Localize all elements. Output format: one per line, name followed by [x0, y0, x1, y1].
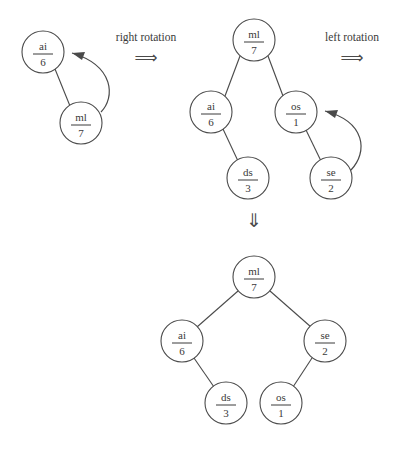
stage-initial-tree: ai 6 ml 7: [22, 31, 109, 144]
edge-ai-ds: [223, 129, 238, 161]
rotation-arrow-head: [325, 110, 338, 118]
edge-ml-ai-final: [197, 291, 238, 327]
node-key-label: ml: [248, 28, 260, 40]
tree-rotation-diagram: ai 6 ml 7: [0, 0, 408, 451]
node-value-label: 7: [78, 127, 84, 139]
right-rotation-label: right rotation: [104, 31, 188, 43]
node-key-label: se: [326, 166, 335, 178]
node-key-label: os: [276, 391, 286, 403]
node-ai-6-middle: ai 6: [190, 91, 232, 133]
stage-middle-tree: ml 7 ai 6 os 1 ds: [190, 19, 361, 199]
node-key-label: ai: [207, 100, 215, 112]
node-value-label: 6: [208, 116, 214, 128]
node-se-2-middle: se 2: [310, 157, 352, 199]
node-key-label: ml: [75, 111, 87, 123]
node-value-label: 7: [251, 44, 257, 56]
downward-implies-icon: ⇓: [234, 209, 274, 231]
node-key-label: ds: [221, 391, 231, 403]
node-ds-3-middle: ds 3: [227, 157, 269, 199]
node-ml-7-initial: ml 7: [60, 102, 102, 144]
node-key-label: ds: [243, 166, 253, 178]
node-key-label: ml: [248, 265, 260, 277]
node-se-2-final: se 2: [304, 320, 346, 362]
node-value-label: 6: [179, 345, 185, 357]
left-rotation-label: left rotation: [312, 31, 392, 43]
node-value-label: 2: [322, 345, 328, 357]
edge-ml-os: [268, 56, 283, 96]
edge-ai-ml: [55, 69, 70, 106]
node-key-label: ai: [178, 329, 186, 341]
node-key-label: se: [320, 329, 329, 341]
edge-os-se: [306, 130, 321, 161]
node-value-label: 3: [223, 407, 229, 419]
node-ml-7-middle: ml 7: [233, 19, 275, 61]
right-rotation-implies-icon: ⟹: [104, 48, 188, 67]
node-value-label: 1: [293, 116, 299, 128]
stage-final-tree: ml 7 ai 6 se 2 ds: [161, 256, 346, 424]
edge-se-os-final: [293, 358, 312, 387]
node-value-label: 2: [328, 182, 334, 194]
node-key-label: os: [291, 100, 301, 112]
rotation-arrow-head: [72, 52, 85, 60]
node-key-label: ai: [39, 40, 47, 52]
node-value-label: 3: [245, 182, 251, 194]
node-value-label: 6: [40, 56, 46, 68]
node-value-label: 7: [251, 281, 257, 293]
edge-ml-se-final: [270, 291, 311, 327]
node-os-1-middle: os 1: [275, 91, 317, 133]
edge-ai-ds-final: [194, 358, 214, 387]
node-ml-7-final: ml 7: [233, 256, 275, 298]
diagram-canvas: ai 6 ml 7: [0, 0, 408, 451]
node-ds-3-final: ds 3: [205, 382, 247, 424]
node-value-label: 1: [278, 407, 284, 419]
edge-ml-ai: [225, 56, 240, 96]
node-os-1-final: os 1: [260, 382, 302, 424]
node-ai-6-initial: ai 6: [22, 31, 64, 73]
node-ai-6-final: ai 6: [161, 320, 203, 362]
left-rotation-implies-icon: ⟹: [312, 48, 392, 67]
